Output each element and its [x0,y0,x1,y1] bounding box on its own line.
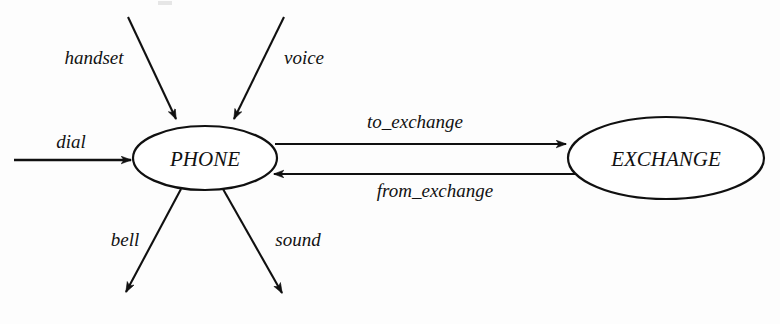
flow-bell-label: bell [111,229,140,250]
flow-handset: handset [64,17,176,119]
flow-to-exchange-label: to_exchange [367,111,463,132]
diagram-canvas: handset voice dial bell sound to_exchang… [0,0,780,324]
flow-voice-line [234,17,284,119]
scan-artifact [158,1,172,5]
flow-to-exchange: to_exchange [275,111,566,144]
flow-bell: bell [111,189,181,292]
node-exchange[interactable]: EXCHANGE [568,117,764,199]
node-phone-label: PHONE [169,147,240,171]
node-phone[interactable]: PHONE [133,126,277,190]
flow-dial: dial [14,131,131,160]
node-exchange-label: EXCHANGE [610,147,721,171]
flow-handset-line [128,17,176,119]
flow-handset-label: handset [64,47,124,68]
flow-sound-line [223,189,282,293]
flow-sound: sound [223,189,321,293]
context-diagram: handset voice dial bell sound to_exchang… [0,0,780,324]
flow-dial-label: dial [56,131,86,152]
flow-voice-label: voice [284,47,324,68]
flow-from-exchange-label: from_exchange [377,180,493,201]
flow-sound-label: sound [275,229,321,250]
flow-from-exchange: from_exchange [274,174,592,201]
flow-voice: voice [234,17,324,119]
